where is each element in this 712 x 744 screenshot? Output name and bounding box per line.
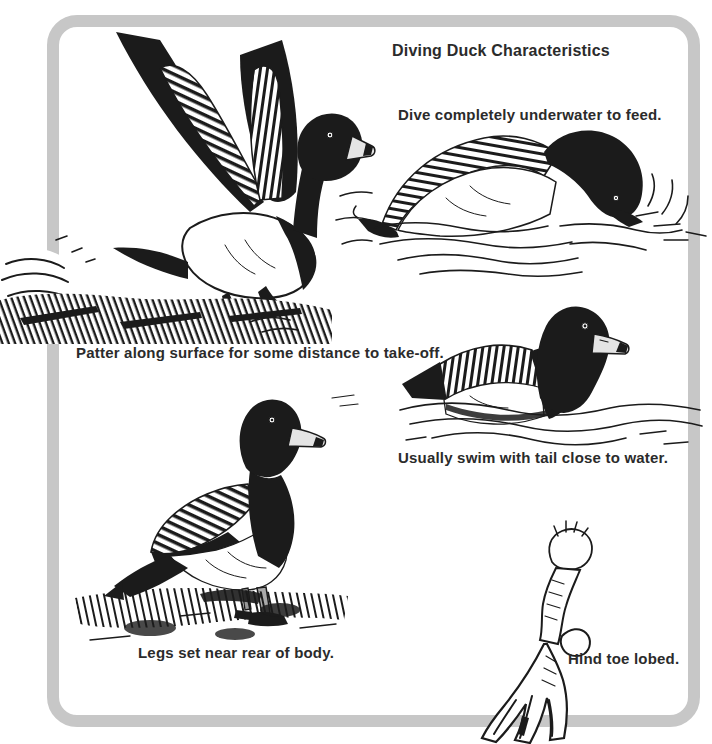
lobed-foot-illustration: [482, 521, 592, 743]
page: Diving Duck Characteristics Dive complet…: [0, 0, 712, 744]
caption-hind-toe: Hind toe lobed.: [568, 650, 679, 667]
caption-swim: Usually swim with tail close to water.: [398, 449, 668, 466]
caption-dive: Dive completely underwater to feed.: [398, 106, 662, 123]
duck-standing-illustration: [75, 395, 358, 640]
duck-diving-illustration: [336, 130, 706, 276]
page-title: Diving Duck Characteristics: [392, 42, 610, 60]
caption-patter: Patter along surface for some distance t…: [76, 344, 444, 361]
caption-legs-rear: Legs set near rear of body.: [138, 644, 334, 661]
duck-taking-off-illustration: [0, 32, 375, 344]
duck-swimming-illustration: [400, 306, 702, 444]
